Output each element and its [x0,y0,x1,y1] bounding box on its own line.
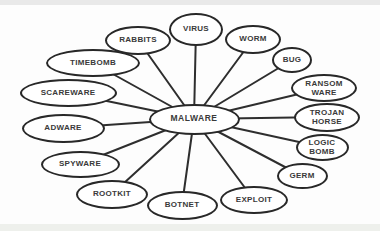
diagram-node-trojan-horse: TROJAN HORSE [294,103,360,132]
diagram-node-ransom-ware: RANSOM WARE [291,74,357,102]
node-label: LOGIC BOMB [307,138,338,156]
node-label: SCAREWARE [39,88,98,97]
node-label: RANSOM WARE [303,79,344,97]
malware-diagram: MALWARE VIRUS WORM BUG RANSOM WARE TROJA… [0,0,380,231]
node-label: WORM [237,34,268,43]
node-label: BOTNET [163,200,202,209]
diagram-node-scareware: SCAREWARE [20,79,117,107]
diagram-node-rabbits: RABBITS [105,26,171,55]
diagram-node-adware: ADWARE [22,114,105,143]
diagram-node-logic-bomb: LOGIC BOMB [296,134,349,161]
center-node-label: MALWARE [169,114,220,124]
node-label: EXPLOIT [234,195,274,204]
diagram-node-rootkit: ROOTKIT [76,180,148,209]
center-node-malware: MALWARE [149,104,240,135]
diagram-node-exploit: EXPLOIT [220,186,288,214]
node-label: ADWARE [42,123,83,132]
node-label: RABBITS [117,35,159,44]
node-label: VIRUS [181,24,211,33]
diagram-node-germ: GERM [277,163,328,189]
node-label: BUG [281,55,304,64]
node-label: GERM [287,171,316,180]
diagram-node-bug: BUG [272,47,312,73]
diagram-node-spyware: SPYWARE [41,151,120,178]
diagram-node-botnet: BOTNET [147,191,218,220]
node-label: TROJAN HORSE [308,108,347,126]
node-label: TIMEBOMB [68,58,118,67]
node-label: ROOTKIT [91,189,133,198]
node-label: SPYWARE [57,159,103,168]
diagram-node-virus: VIRUS [169,13,223,46]
diagram-node-worm: WORM [225,25,281,54]
